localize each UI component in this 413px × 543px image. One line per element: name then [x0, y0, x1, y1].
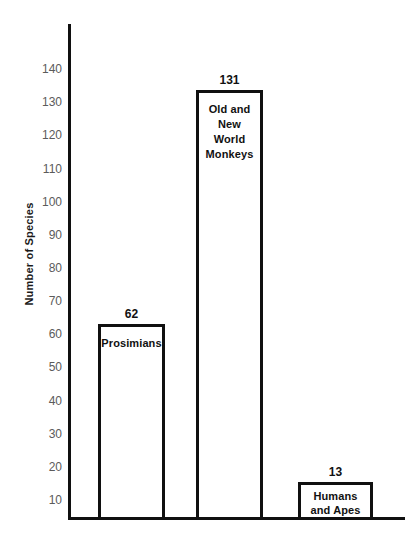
y-tick-label: 30 — [18, 428, 62, 440]
bar-label-line: New — [199, 117, 260, 132]
bar-label-line: Old and — [199, 102, 260, 117]
bar-value-old-and-new-world-monkeys: 131 — [196, 74, 263, 86]
y-tick-label: 70 — [18, 295, 62, 307]
y-tick-label: 100 — [18, 196, 62, 208]
bar-label-line: Prosimians — [101, 336, 162, 351]
y-tick-label: 60 — [18, 328, 62, 340]
y-tick-label: 90 — [18, 229, 62, 241]
bar-humans-and-apes[interactable]: Humans and Apes — [298, 482, 373, 520]
bar-label-line: and Apes — [301, 503, 370, 517]
y-tick-label: 20 — [18, 461, 62, 473]
y-tick-label: 10 — [18, 494, 62, 506]
y-tick-label: 130 — [18, 96, 62, 108]
y-tick-label: 120 — [18, 129, 62, 141]
y-tick-label: 80 — [18, 262, 62, 274]
bar-label-humans-and-apes: Humans and Apes — [301, 489, 370, 517]
y-tick-label: 140 — [18, 63, 62, 75]
bar-prosimians[interactable]: Prosimians — [98, 324, 165, 520]
bar-label-line: Monkeys — [199, 147, 260, 162]
y-axis-tick-labels: 140 130 120 110 100 90 80 70 60 50 40 30… — [0, 0, 62, 543]
bar-label-prosimians: Prosimians — [101, 336, 162, 351]
y-tick-label: 50 — [18, 361, 62, 373]
bar-chart: Number of Species 140 130 120 110 100 90… — [0, 0, 413, 543]
bar-label-old-and-new-world-monkeys: Old and New World Monkeys — [199, 102, 260, 162]
bar-label-line: Humans — [301, 489, 370, 503]
bar-value-humans-and-apes: 13 — [298, 466, 373, 478]
y-tick-label: 40 — [18, 395, 62, 407]
bar-value-prosimians: 62 — [98, 308, 165, 320]
y-axis-line — [68, 24, 71, 520]
bar-old-and-new-world-monkeys[interactable]: Old and New World Monkeys — [196, 90, 263, 520]
y-tick-label: 110 — [18, 163, 62, 175]
bar-label-line: World — [199, 132, 260, 147]
